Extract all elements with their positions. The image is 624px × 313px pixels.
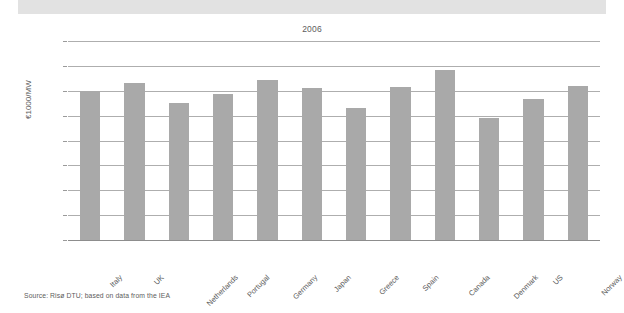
bar xyxy=(523,99,543,240)
x-axis-tick-label: Greece xyxy=(377,273,401,297)
bar xyxy=(124,83,144,240)
x-axis-tick-label: Denmark xyxy=(512,273,540,301)
chart-title: 2006 xyxy=(0,24,624,34)
bar xyxy=(302,88,322,240)
bar xyxy=(435,70,455,240)
y-axis-tick xyxy=(63,165,67,166)
y-axis-tick xyxy=(63,66,67,67)
x-axis-tick-label: Netherlands xyxy=(205,273,240,308)
bar xyxy=(257,80,277,240)
x-axis-tick-label: UK xyxy=(152,273,166,287)
x-axis-tick-label: Norway xyxy=(599,273,623,297)
y-axis-tick xyxy=(63,141,67,142)
y-axis-tick xyxy=(63,240,67,241)
y-axis-tick xyxy=(63,41,67,42)
bar xyxy=(80,91,100,240)
y-axis-tick xyxy=(63,116,67,117)
gridline xyxy=(68,190,600,191)
chart-page: 2006 €1000/MW 02004006008001000120014001… xyxy=(0,0,624,313)
gridline xyxy=(68,141,600,142)
bar xyxy=(568,86,588,240)
gridline xyxy=(68,66,600,67)
y-axis-tick xyxy=(63,215,67,216)
bar xyxy=(213,94,233,240)
bar-chart: 2006 €1000/MW 02004006008001000120014001… xyxy=(0,14,624,279)
bar xyxy=(479,118,499,240)
x-axis-tick-label: Canada xyxy=(467,273,492,298)
x-axis-tick-label: US xyxy=(551,273,565,287)
gridline xyxy=(68,165,600,166)
x-axis-tick-label: Germany xyxy=(291,273,319,301)
bar xyxy=(390,87,410,240)
plot-area: 02004006008001000120014001600ItalyUKNeth… xyxy=(68,41,600,240)
bar xyxy=(346,108,366,240)
y-axis-tick xyxy=(63,190,67,191)
y-axis-tick xyxy=(63,91,67,92)
gridline xyxy=(68,215,600,216)
x-axis-tick-label: Japan xyxy=(332,273,353,294)
x-axis-tick-label: Portugal xyxy=(245,273,271,299)
x-axis-tick-label: Spain xyxy=(420,273,440,293)
y-axis-label: €1000/MW xyxy=(24,80,33,119)
x-axis-tick-label: Italy xyxy=(108,273,124,289)
gridline xyxy=(68,116,600,117)
bar xyxy=(169,103,189,240)
x-axis-line xyxy=(68,240,600,241)
gridline xyxy=(68,91,600,92)
gridline xyxy=(68,41,600,42)
source-note: Source: Risø DTU; based on data from the… xyxy=(24,292,170,299)
